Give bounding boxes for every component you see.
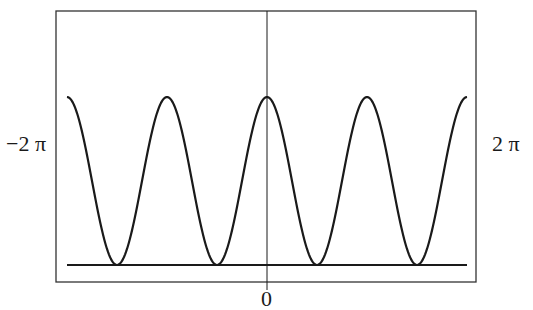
x-tick-label-zero: 0 xyxy=(261,288,272,310)
x-tick-label-max: 2 π xyxy=(492,133,520,155)
plot-frame xyxy=(56,11,476,282)
x-tick-label-min: −2 π xyxy=(6,133,46,155)
